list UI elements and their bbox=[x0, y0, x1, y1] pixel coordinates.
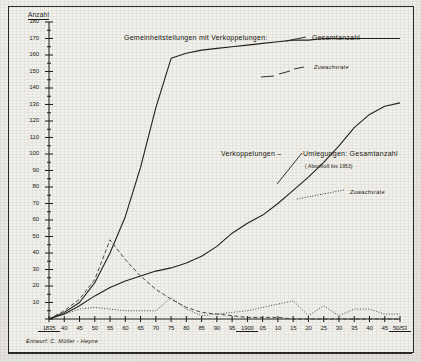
y-tick-label: 180 bbox=[19, 18, 39, 24]
y-tick-label: 130 bbox=[19, 101, 39, 107]
annotation-gemeinheitsteilungen: Gemeinheitsteilungen mit Verkoppelungen: bbox=[124, 34, 267, 41]
y-tick-label: 150 bbox=[19, 68, 39, 74]
y-tick-label: 30 bbox=[19, 266, 39, 272]
y-tick-label: 160 bbox=[19, 51, 39, 57]
y-tick-label: 10 bbox=[19, 299, 39, 305]
y-tick-label: 110 bbox=[19, 134, 39, 140]
annotation-zuwachsrate-bottom: Zuwachsrate bbox=[350, 189, 385, 195]
y-tick-label: 100 bbox=[19, 150, 39, 156]
annotation-verkoppelungen: Verkoppelungen – bbox=[221, 150, 281, 157]
series-line bbox=[49, 103, 400, 319]
y-tick-label: 60 bbox=[19, 216, 39, 222]
y-tick-label: 40 bbox=[19, 249, 39, 255]
annotation-umlegungen: Umlegungen: Gesamtanzahl bbox=[303, 150, 398, 157]
leader-line-umlegungen bbox=[277, 152, 305, 186]
y-tick-label: 50 bbox=[19, 233, 39, 239]
leader-line-top bbox=[286, 36, 308, 44]
series-line bbox=[49, 39, 400, 320]
y-tick-label: 90 bbox=[19, 167, 39, 173]
series-line bbox=[49, 240, 400, 319]
legend-dash-sample-top bbox=[260, 66, 306, 80]
chart-page: Anzahl 102030405060708090100110120130140… bbox=[0, 0, 421, 362]
chart-plot bbox=[8, 6, 412, 351]
x-tick-label: 50/53 bbox=[389, 325, 411, 332]
bottom-rule bbox=[8, 352, 412, 354]
annotation-gesamtanzahl-top: Gesamtanzahl bbox=[312, 34, 360, 41]
chart-credit: Entwurf: C. Müller - Heyne bbox=[26, 338, 98, 344]
y-tick-label: 120 bbox=[19, 117, 39, 123]
series-line bbox=[49, 298, 400, 319]
legend-dot-sample-bottom bbox=[296, 188, 346, 202]
y-tick-label: 80 bbox=[19, 183, 39, 189]
y-tick-label: 170 bbox=[19, 35, 39, 41]
y-tick-label: 20 bbox=[19, 282, 39, 288]
y-tick-label: 140 bbox=[19, 84, 39, 90]
annotation-zuwachsrate-top: Zuwachsrate bbox=[314, 64, 349, 70]
annotation-umlegungen-sub: ( Abschluß bis 1953) bbox=[305, 163, 353, 169]
y-tick-label: 70 bbox=[19, 200, 39, 206]
